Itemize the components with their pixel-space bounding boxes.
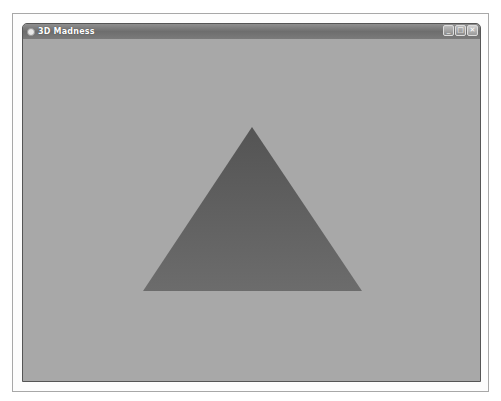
- scene-layer: [0, 0, 501, 401]
- rendered-triangle: [143, 127, 362, 291]
